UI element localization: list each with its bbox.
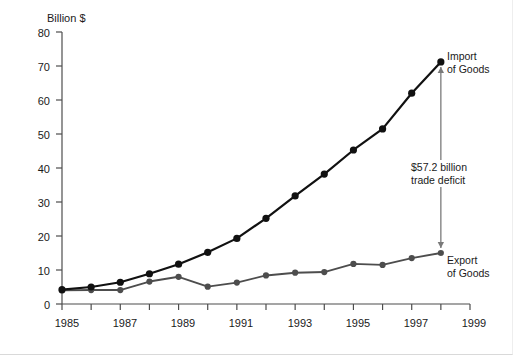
datapoint-import-1996 xyxy=(379,125,386,132)
datapoint-import-1990 xyxy=(204,249,211,256)
datapoint-export-1995 xyxy=(350,261,356,267)
series-label-export-line1: Export xyxy=(447,254,490,267)
datapoint-import-1986 xyxy=(88,283,95,290)
datapoint-import-1994 xyxy=(321,171,328,178)
datapoint-export-1988 xyxy=(146,278,152,284)
series-label-import-line1: Import xyxy=(447,50,490,63)
trade-deficit-arrow xyxy=(438,67,444,248)
datapoint-import-1998 xyxy=(437,58,444,65)
datapoint-export-1997 xyxy=(409,255,415,261)
datapoint-import-1992 xyxy=(262,215,269,222)
y-axis-ticks xyxy=(56,32,62,304)
datapoint-import-1991 xyxy=(233,235,240,242)
datapoint-import-1988 xyxy=(146,270,153,277)
datapoint-import-1987 xyxy=(117,279,124,286)
line-import-of-goods xyxy=(62,62,441,290)
datapoint-export-1991 xyxy=(234,279,240,285)
datapoint-import-1985 xyxy=(58,286,65,293)
trade-deficit-line2: trade deficit xyxy=(411,174,467,187)
datapoint-export-1996 xyxy=(379,262,385,268)
trade-deficit-line1: $57.2 billion xyxy=(411,161,467,174)
series-import-of-goods xyxy=(58,58,444,293)
series-export-of-goods xyxy=(59,250,444,294)
x-axis-ticks xyxy=(62,304,470,310)
datapoint-export-1992 xyxy=(263,272,269,278)
datapoint-import-1995 xyxy=(350,146,357,153)
trade-deficit-annotation: $57.2 billion trade deficit xyxy=(408,160,470,187)
datapoint-export-1987 xyxy=(117,287,123,293)
datapoint-export-1998 xyxy=(438,250,444,256)
series-label-import-line2: of Goods xyxy=(447,63,490,76)
series-label-import: Import of Goods xyxy=(447,50,490,75)
deficit-arrow-head-up xyxy=(438,67,444,73)
datapoint-export-1994 xyxy=(321,269,327,275)
datapoint-export-1989 xyxy=(175,274,181,280)
deficit-arrow-head-down xyxy=(438,242,444,248)
datapoint-export-1993 xyxy=(292,270,298,276)
datapoint-export-1990 xyxy=(205,284,211,290)
datapoint-import-1989 xyxy=(175,261,182,268)
datapoint-import-1993 xyxy=(292,192,299,199)
series-label-export-line2: of Goods xyxy=(447,267,490,280)
series-label-export: Export of Goods xyxy=(447,254,490,279)
datapoint-import-1997 xyxy=(408,90,415,97)
